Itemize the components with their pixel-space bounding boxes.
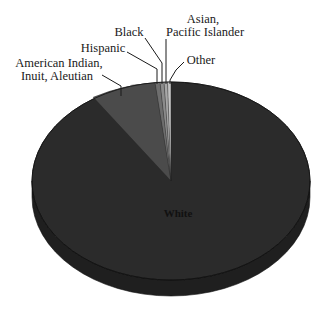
label-white: White — [164, 207, 193, 219]
leader-hispanic — [127, 52, 157, 84]
label-hispanic: Hispanic — [81, 41, 126, 55]
label-asian-1: Asian, — [187, 12, 219, 26]
label-american-indian-2: Inuit, Aleutian — [21, 69, 94, 83]
label-black: Black — [114, 25, 144, 39]
label-other: Other — [187, 53, 216, 67]
label-asian-2: Pacific Islander — [166, 25, 245, 39]
pie-chart: American Indian, Inuit, Aleutian Hispani… — [0, 0, 323, 317]
label-american-indian-1: American Indian, — [15, 56, 102, 70]
leader-other — [170, 62, 184, 84]
leader-black — [145, 38, 162, 84]
